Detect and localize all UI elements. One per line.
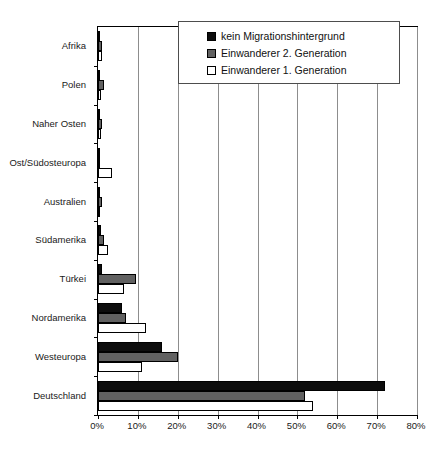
x-axis-tick (258, 415, 259, 419)
x-axis-label: 0% (90, 420, 104, 431)
bar (98, 274, 136, 284)
x-axis-tick (98, 415, 99, 419)
y-axis-label: Naher Osten (32, 118, 86, 129)
bar (98, 235, 104, 245)
y-axis-tick (94, 337, 98, 338)
y-axis-label: Deutschland (33, 389, 86, 400)
y-axis-label: Südamerika (35, 234, 86, 245)
x-axis-tick (377, 415, 378, 419)
bar (98, 168, 112, 178)
bar-group (98, 342, 417, 372)
y-axis-label: Australien (44, 195, 86, 206)
bar (98, 158, 100, 168)
x-axis-label: 30% (207, 420, 226, 431)
x-axis-label: 70% (367, 420, 386, 431)
y-axis-tick (94, 105, 98, 106)
bar (98, 323, 146, 333)
bar (98, 225, 101, 235)
bar (98, 109, 100, 119)
legend-item: Einwanderer 2. Generation (179, 45, 399, 62)
y-axis-label: Westeuropa (35, 350, 86, 361)
legend-item-label: Einwanderer 2. Generation (221, 48, 347, 59)
y-axis-tick (94, 221, 98, 222)
legend-swatch-icon (207, 49, 216, 58)
bar-group (98, 303, 417, 333)
bar-group (98, 225, 417, 255)
legend-item-label: Einwanderer 1. Generation (221, 65, 347, 76)
bar-group (98, 187, 417, 217)
bar-group (98, 381, 417, 411)
x-axis-label: 20% (167, 420, 186, 431)
bar (98, 187, 100, 197)
bar (98, 284, 124, 294)
bar (98, 391, 305, 401)
bar (98, 197, 102, 207)
chart-legend: kein Migrationshintergrund Einwanderer 2… (178, 21, 400, 84)
y-axis-label: Nordamerika (32, 312, 86, 323)
bar (98, 313, 126, 323)
y-axis-tick (94, 66, 98, 67)
x-axis-tick (417, 415, 418, 419)
x-axis-label: 10% (127, 420, 146, 431)
x-axis-label: 60% (327, 420, 346, 431)
x-axis-label: 40% (247, 420, 266, 431)
bar-chart: AfrikaPolenNaher OstenOst/SüdosteuropaAu… (0, 0, 436, 456)
bar (98, 264, 102, 274)
bar (98, 80, 104, 90)
y-axis-labels: AfrikaPolenNaher OstenOst/SüdosteuropaAu… (0, 26, 92, 416)
bar (98, 207, 100, 217)
legend-item: kein Migrationshintergrund (179, 28, 399, 45)
bar (98, 245, 108, 255)
bar (98, 401, 313, 411)
bar (98, 352, 178, 362)
bar (98, 362, 142, 372)
bar (98, 31, 100, 41)
y-axis-tick (94, 143, 98, 144)
x-axis-tick (337, 415, 338, 419)
x-axis-label: 80% (406, 420, 425, 431)
bar (98, 342, 162, 352)
bar (98, 41, 102, 51)
bar (98, 303, 122, 313)
bar (98, 129, 101, 139)
x-axis-tick (178, 415, 179, 419)
bar (98, 90, 101, 100)
y-axis-tick (94, 260, 98, 261)
x-axis-tick (138, 415, 139, 419)
y-axis-tick (94, 182, 98, 183)
bar-group (98, 109, 417, 139)
bar (98, 148, 100, 158)
y-axis-tick (94, 376, 98, 377)
x-axis-tick (218, 415, 219, 419)
legend-item-label: kein Migrationshintergrund (221, 31, 345, 42)
x-axis-label: 50% (287, 420, 306, 431)
y-axis-tick (94, 299, 98, 300)
x-axis-tick (297, 415, 298, 419)
bar (98, 70, 100, 80)
legend-swatch-icon (207, 66, 216, 75)
bar (98, 51, 102, 61)
bar (98, 381, 385, 391)
y-axis-label: Ost/Südosteuropa (9, 156, 86, 167)
plot-area (97, 26, 418, 416)
legend-swatch-icon (207, 32, 216, 41)
bar-group (98, 264, 417, 294)
bar-group (98, 148, 417, 178)
x-axis-labels: 0%10%20%30%40%50%60%70%80% (97, 420, 418, 436)
bar (98, 119, 102, 129)
legend-item: Einwanderer 1. Generation (179, 62, 399, 79)
y-axis-label: Türkei (60, 273, 86, 284)
gridline (417, 27, 418, 415)
y-axis-label: Polen (62, 79, 86, 90)
y-axis-label: Afrika (62, 40, 86, 51)
